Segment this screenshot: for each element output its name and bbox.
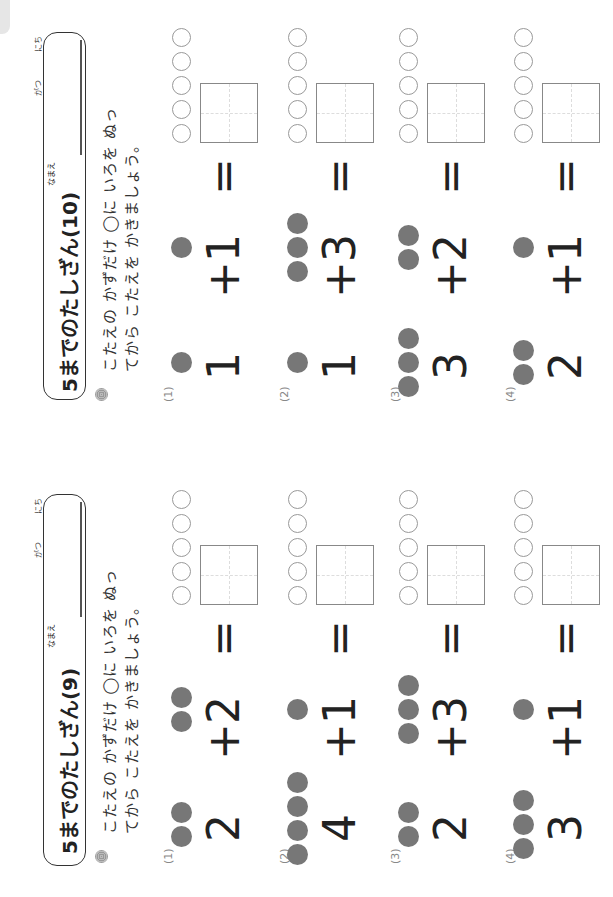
empty-count-circle[interactable] <box>288 100 307 119</box>
name-underline <box>80 502 82 617</box>
empty-count-circle[interactable] <box>514 100 533 119</box>
equals-sign: = <box>202 620 246 657</box>
answer-box[interactable] <box>542 83 600 143</box>
answer-box[interactable] <box>542 545 600 605</box>
empty-count-circle[interactable] <box>514 514 533 533</box>
operand-b: 2 <box>429 234 473 262</box>
operand-a: 2 <box>429 814 473 842</box>
plus-sign: + <box>318 261 362 298</box>
empty-count-circle[interactable] <box>514 562 533 581</box>
worksheet: 5までのたしざん(9)なまえがつにちこたえの かずだけ ◯に いろを ぬってから… <box>0 462 613 897</box>
empty-count-circle[interactable] <box>288 562 307 581</box>
empty-count-circle[interactable] <box>172 514 191 533</box>
operand-b: 1 <box>318 696 362 724</box>
operand-a: 1 <box>202 352 246 380</box>
empty-count-circle[interactable] <box>514 586 533 605</box>
operand-a: 3 <box>544 814 588 842</box>
empty-count-circle[interactable] <box>399 538 418 557</box>
empty-count-circle[interactable] <box>172 52 191 71</box>
empty-count-circle[interactable] <box>399 76 418 95</box>
empty-count-circle[interactable] <box>399 124 418 143</box>
filled-dot <box>171 711 192 732</box>
instruction-line-2: てから こたえを かきましょう。 <box>120 599 141 834</box>
empty-count-circle[interactable] <box>172 490 191 509</box>
answer-box[interactable] <box>427 545 485 605</box>
instruction-line-1: こたえの かずだけ ◯に いろを ぬっ <box>98 569 119 834</box>
operand-b: 3 <box>429 696 473 724</box>
empty-count-circle[interactable] <box>399 28 418 47</box>
guide-line <box>229 546 230 604</box>
worksheet: 5までのたしざん(10)なまえがつにちこたえの かずだけ ◯に いろを ぬってか… <box>0 0 613 440</box>
empty-count-circle[interactable] <box>514 124 533 143</box>
empty-count-circle[interactable] <box>399 490 418 509</box>
filled-dot <box>398 802 419 823</box>
equals-sign: = <box>318 620 362 657</box>
empty-count-circle[interactable] <box>514 28 533 47</box>
filled-dot <box>398 225 419 246</box>
empty-count-circle[interactable] <box>514 538 533 557</box>
empty-count-circle[interactable] <box>288 490 307 509</box>
plus-sign: + <box>202 723 246 760</box>
empty-count-circle[interactable] <box>288 52 307 71</box>
operand-b: 1 <box>544 234 588 262</box>
empty-count-circle[interactable] <box>514 490 533 509</box>
operand-a: 1 <box>318 352 362 380</box>
empty-count-circle[interactable] <box>288 514 307 533</box>
empty-count-circle[interactable] <box>288 124 307 143</box>
operand-a: 2 <box>202 814 246 842</box>
answer-box[interactable] <box>316 545 374 605</box>
empty-count-circle[interactable] <box>172 76 191 95</box>
filled-dot <box>398 699 419 720</box>
empty-count-circle[interactable] <box>514 76 533 95</box>
filled-dot <box>287 796 308 817</box>
empty-count-circle[interactable] <box>172 124 191 143</box>
problem-number: (4) <box>504 386 517 402</box>
operand-b: 1 <box>202 234 246 262</box>
empty-count-circle[interactable] <box>399 52 418 71</box>
empty-count-circle[interactable] <box>399 514 418 533</box>
empty-count-circle[interactable] <box>399 586 418 605</box>
filled-dot <box>513 814 534 835</box>
worksheet-title: 5までのたしざん(9) <box>54 668 83 854</box>
empty-count-circle[interactable] <box>288 586 307 605</box>
plus-sign: + <box>429 723 473 760</box>
filled-dot <box>398 826 419 847</box>
answer-box[interactable] <box>316 83 374 143</box>
guide-line <box>345 546 346 604</box>
filled-dot <box>513 838 534 859</box>
problem-number: (3) <box>389 848 402 864</box>
plus-sign: + <box>318 723 362 760</box>
empty-count-circle[interactable] <box>172 538 191 557</box>
empty-count-circle[interactable] <box>288 28 307 47</box>
empty-count-circle[interactable] <box>172 28 191 47</box>
empty-count-circle[interactable] <box>399 100 418 119</box>
filled-dot <box>171 802 192 823</box>
empty-count-circle[interactable] <box>172 100 191 119</box>
answer-box[interactable] <box>200 545 258 605</box>
empty-count-circle[interactable] <box>514 52 533 71</box>
empty-count-circle[interactable] <box>288 76 307 95</box>
empty-count-circle[interactable] <box>172 586 191 605</box>
answer-box[interactable] <box>427 83 485 143</box>
guide-line <box>456 84 457 142</box>
guide-line <box>456 546 457 604</box>
empty-count-circle[interactable] <box>288 538 307 557</box>
operand-a: 3 <box>429 352 473 380</box>
filled-dot <box>171 826 192 847</box>
plus-sign: + <box>544 723 588 760</box>
equals-sign: = <box>544 158 588 195</box>
filled-dot <box>398 723 419 744</box>
answer-box[interactable] <box>200 83 258 143</box>
filled-dot <box>171 687 192 708</box>
filled-dot <box>398 328 419 349</box>
filled-dot <box>513 340 534 361</box>
guide-line <box>229 84 230 142</box>
filled-dot <box>287 699 308 720</box>
filled-dot <box>287 352 308 373</box>
empty-count-circle[interactable] <box>399 562 418 581</box>
month-label: がつ <box>32 80 43 96</box>
filled-dot <box>287 820 308 841</box>
filled-dot <box>171 237 192 258</box>
empty-count-circle[interactable] <box>172 562 191 581</box>
equals-sign: = <box>429 158 473 195</box>
